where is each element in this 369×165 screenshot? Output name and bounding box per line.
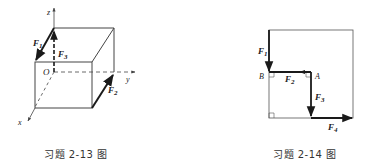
cube-top-right-edge bbox=[92, 28, 114, 62]
f2-label: F2 bbox=[284, 74, 295, 86]
diagram-canvas: z y x O F1 F3 F2 F1 B A F2 F3 F4 bbox=[0, 0, 369, 165]
force-f2-arrowhead bbox=[299, 70, 305, 74]
f1-label: F1 bbox=[257, 46, 268, 58]
right-angle-mark-bottom bbox=[269, 113, 274, 118]
point-b-label: B bbox=[259, 72, 264, 81]
figure-2-13: z y x O F1 F3 F2 bbox=[17, 8, 135, 127]
caption-figure-2-13: 习题 2-13 图 bbox=[44, 146, 108, 161]
f2-label: F2 bbox=[107, 85, 118, 97]
z-axis-label: z bbox=[46, 8, 51, 17]
f3-label: F3 bbox=[314, 92, 325, 104]
f3-label: F3 bbox=[57, 49, 68, 61]
f4-label: F4 bbox=[327, 122, 338, 134]
figure-2-14: F1 B A F2 F3 F4 bbox=[257, 30, 353, 134]
y-axis-label: y bbox=[125, 75, 130, 84]
x-axis bbox=[28, 108, 35, 121]
origin-label: O bbox=[43, 67, 50, 77]
x-axis-hidden bbox=[35, 72, 54, 107]
f1-label: F1 bbox=[32, 38, 43, 50]
caption-figure-2-14: 习题 2-14 图 bbox=[273, 146, 337, 161]
x-axis-label: x bbox=[17, 118, 22, 127]
point-a-label: A bbox=[314, 72, 320, 81]
